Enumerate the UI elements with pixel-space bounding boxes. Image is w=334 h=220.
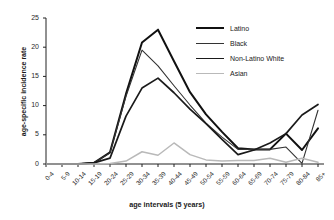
legend-label: Asian	[230, 70, 248, 77]
legend-line-swatch	[196, 58, 224, 59]
series-line	[46, 143, 318, 164]
chart-legend: LatinoBlackNon-Latino WhiteAsian	[196, 22, 326, 82]
series-line	[46, 78, 318, 164]
legend-item[interactable]: Latino	[196, 22, 326, 34]
legend-label: Non-Latino White	[230, 55, 284, 62]
legend-label: Latino	[230, 25, 249, 32]
legend-item[interactable]: Non-Latino White	[196, 52, 326, 64]
legend-item[interactable]: Black	[196, 37, 326, 49]
legend-line-swatch	[196, 73, 224, 74]
legend-line-swatch	[196, 43, 224, 44]
chart-figure: age-specific incidence rate age interval…	[0, 0, 334, 220]
legend-label: Black	[230, 40, 247, 47]
legend-item[interactable]: Asian	[196, 67, 326, 79]
legend-line-swatch	[196, 27, 224, 29]
